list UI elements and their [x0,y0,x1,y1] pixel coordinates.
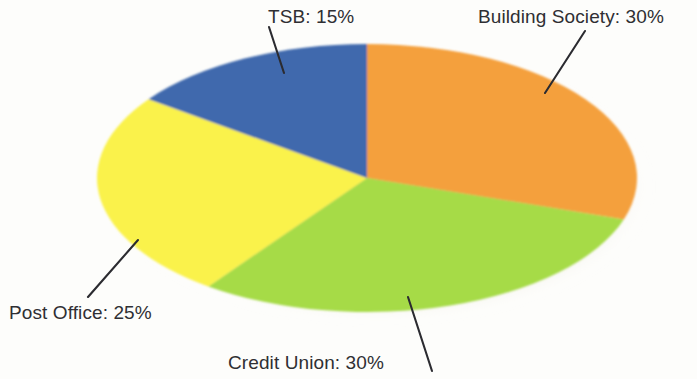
pie-label-building-society: Building Society: 30% [478,7,664,26]
pie-label-tsb: TSB: 15% [268,7,354,26]
pie-label-credit-union: Credit Union: 30% [228,353,384,372]
leader-line-building-society [545,31,585,93]
pie-label-post-office: Post Office: 25% [9,303,152,322]
pie-chart-figure: TSB: 15% Building Society: 30% Post Offi… [0,0,697,379]
pie-slices [97,44,637,312]
leader-line-post-office [88,240,138,297]
